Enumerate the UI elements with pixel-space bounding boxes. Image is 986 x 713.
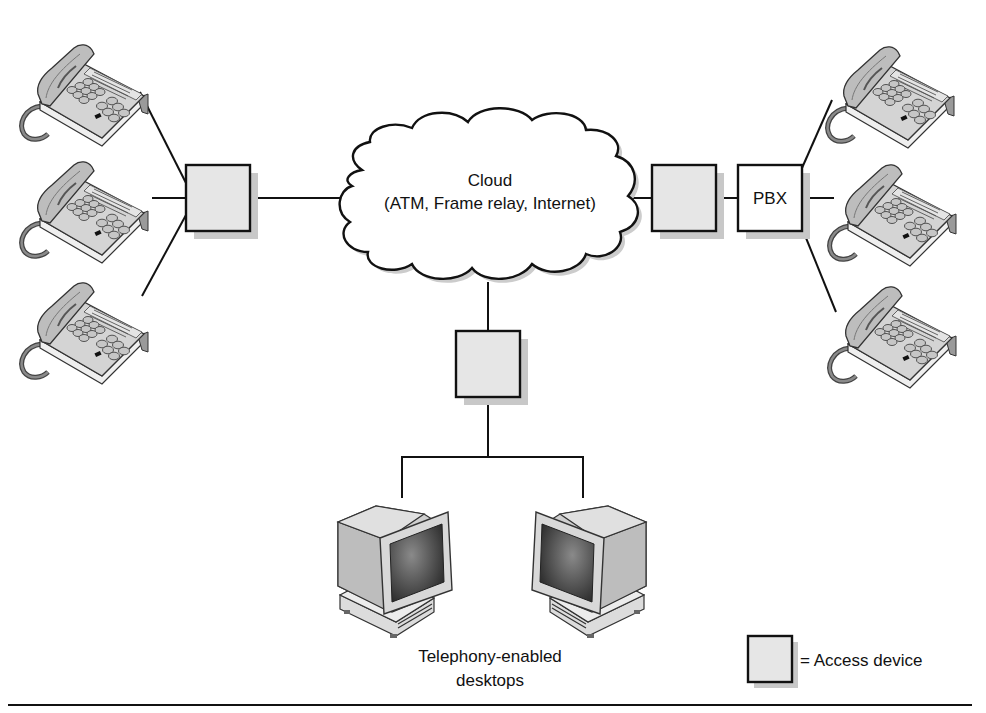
desktops-caption-line1: Telephony-enabled xyxy=(418,647,562,666)
telephone-icon xyxy=(830,287,956,388)
network-diagram: Cloud (ATM, Frame relay, Internet) PBX T… xyxy=(0,0,986,713)
access-device-right xyxy=(652,165,724,239)
desktop-site: Telephony-enabled desktops xyxy=(338,331,646,690)
access-device-left xyxy=(186,165,258,239)
right-site: PBX xyxy=(652,47,956,388)
cloud-title: Cloud xyxy=(468,171,512,190)
telephone-icon xyxy=(22,283,148,384)
legend: = Access device xyxy=(748,636,922,688)
telephone-icon xyxy=(22,162,148,263)
pbx-label: PBX xyxy=(753,189,787,208)
telephone-icon xyxy=(22,45,148,146)
legend-access-device-symbol xyxy=(748,636,792,682)
computer-icon xyxy=(338,506,452,638)
legend-text: = Access device xyxy=(800,651,922,670)
computer-icon xyxy=(532,506,646,638)
access-device-bottom xyxy=(456,331,528,405)
telephone-icon xyxy=(828,47,954,148)
cloud-subtitle: (ATM, Frame relay, Internet) xyxy=(384,194,596,213)
pbx-switch: PBX xyxy=(738,165,810,239)
telephone-icon xyxy=(830,165,956,266)
left-site xyxy=(22,45,258,384)
desktops-caption-line2: desktops xyxy=(456,671,524,690)
cloud-network: Cloud (ATM, Frame relay, Internet) xyxy=(340,108,642,283)
